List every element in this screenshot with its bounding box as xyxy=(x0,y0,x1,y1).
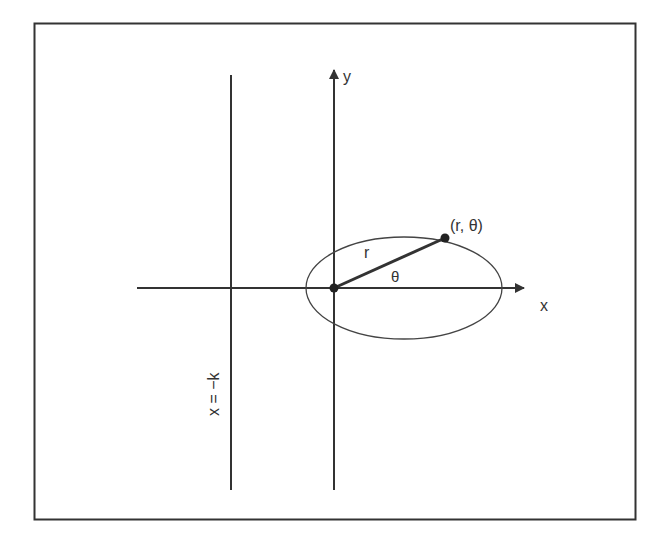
point-label: (r, θ) xyxy=(450,217,483,234)
y-axis-label: y xyxy=(343,68,351,85)
pole-point xyxy=(330,284,339,293)
radius-label: r xyxy=(364,244,370,261)
x-axis-label: x xyxy=(540,297,548,314)
directrix-label: x = −k xyxy=(205,371,222,416)
angle-label: θ xyxy=(391,268,399,285)
point-r-theta xyxy=(441,234,450,243)
polar-conic-diagram: y x (r, θ) r θ x = −k xyxy=(0,0,663,544)
